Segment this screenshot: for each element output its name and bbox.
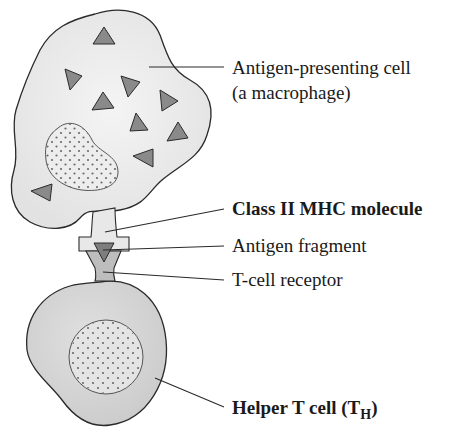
label-helper-close: ) [371,397,377,419]
leader-line-tcr [103,272,224,280]
leader-line-helper [155,378,224,407]
helper-t-cell [27,281,167,425]
label-apc-line2: (a macrophage) [232,82,351,104]
leader-line-mhc [105,209,224,232]
antigen-presenting-cell [11,10,211,228]
label-helper-main: Helper T cell (T [232,397,361,419]
label-antigen-fragment: Antigen fragment [232,235,367,256]
label-apc-line1: Antigen-presenting cell [232,57,411,78]
label-helper-t-cell: Helper T cell (TH) [232,397,377,422]
label-tcr: T-cell receptor [232,269,343,290]
immune-diagram: Antigen-presenting cell (a macrophage) C… [0,0,476,438]
label-helper-sub: H [360,407,371,422]
label-mhc: Class II MHC molecule [232,198,423,219]
